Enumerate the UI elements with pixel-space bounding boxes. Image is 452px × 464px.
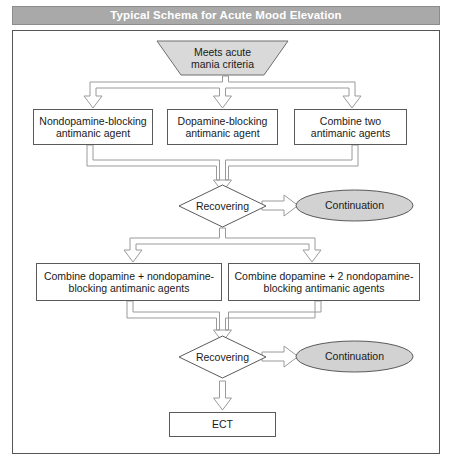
node-continuation-2[interactable]: Continuation — [295, 340, 414, 373]
node-decision-2-label: Recovering — [178, 335, 267, 379]
diagram-frame — [12, 30, 440, 454]
node-entry[interactable]: Meets acute mania criteria — [156, 40, 289, 76]
figure-title-bar: Typical Schema for Acute Mood Elevation — [12, 6, 440, 25]
node-option-1-label: Nondopamine-blocking antimanic agent — [39, 115, 146, 140]
node-decision-1-label: Recovering — [178, 184, 267, 228]
flowchart-figure: Typical Schema for Acute Mood Elevation — [0, 0, 452, 464]
node-option-2[interactable]: Dopamine-blocking antimanic agent — [167, 109, 278, 145]
node-combo-1-label: Combine dopamine + nondopamine- blocking… — [44, 270, 214, 295]
node-option-3-label: Combine two antimanic agents — [311, 115, 390, 140]
node-terminal-ect-label: ECT — [212, 418, 233, 431]
node-continuation-1[interactable]: Continuation — [295, 189, 414, 222]
node-option-3[interactable]: Combine two antimanic agents — [294, 109, 407, 145]
node-terminal-ect[interactable]: ECT — [169, 412, 276, 437]
node-option-2-label: Dopamine-blocking antimanic agent — [178, 115, 268, 140]
node-decision-1[interactable]: Recovering — [178, 184, 267, 228]
node-combo-1[interactable]: Combine dopamine + nondopamine- blocking… — [36, 263, 222, 301]
node-continuation-1-label: Continuation — [295, 189, 414, 222]
node-combo-2-label: Combine dopamine + 2 nondopamine- blocki… — [235, 270, 414, 295]
node-decision-2[interactable]: Recovering — [178, 335, 267, 379]
node-continuation-2-label: Continuation — [295, 340, 414, 373]
page-title: Typical Schema for Acute Mood Elevation — [110, 10, 341, 22]
node-option-1[interactable]: Nondopamine-blocking antimanic agent — [33, 109, 153, 145]
node-combo-2[interactable]: Combine dopamine + 2 nondopamine- blocki… — [228, 263, 420, 301]
node-entry-label: Meets acute mania criteria — [156, 40, 289, 76]
